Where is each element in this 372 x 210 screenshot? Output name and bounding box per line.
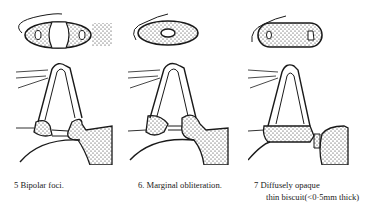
panel-diffusely-opaque: 7 Diffusely opaque thin biscuit(<0·5mm t… [248, 0, 372, 165]
panel-bipolar-foci: 5 Bipolar foci. [0, 0, 124, 165]
bipolar-foci-illustration [0, 0, 124, 165]
caption-text: 6. Marginal obliteration. [138, 180, 222, 190]
bone-stipple [92, 23, 112, 46]
caption-marginal-obliteration: 6. Marginal obliteration. [138, 179, 222, 191]
caption-text: 5 Bipolar foci. [14, 180, 64, 190]
caption-diffusely-opaque: 7 Diffusely opaque thin biscuit(<0·5mm t… [254, 179, 359, 203]
caption-text: 7 Diffusely opaque [254, 180, 320, 190]
diffusely-opaque-illustration [248, 0, 372, 165]
caption-text-line2: thin biscuit(<0·5mm thick) [254, 191, 359, 203]
marginal-obliteration-illustration [124, 0, 248, 165]
caption-bipolar-foci: 5 Bipolar foci. [14, 179, 64, 191]
panel-marginal-obliteration: 6. Marginal obliteration. [124, 0, 248, 165]
